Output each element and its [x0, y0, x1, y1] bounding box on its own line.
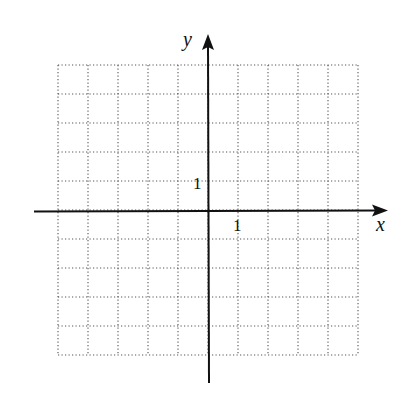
y-axis [208, 45, 209, 383]
x-tick-label: 1 [233, 216, 242, 235]
y-tick-label: 1 [193, 174, 202, 193]
x-axis-label: x [375, 213, 385, 235]
x-axis [34, 211, 378, 212]
coordinate-plane: y x 1 1 [0, 0, 406, 402]
y-axis-label: y [181, 28, 192, 51]
